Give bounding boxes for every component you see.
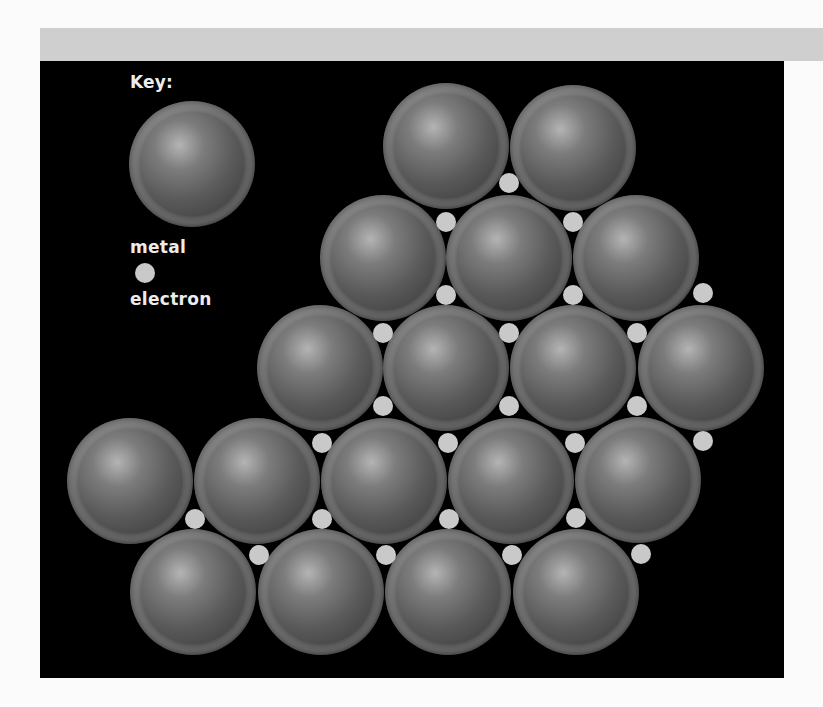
electron bbox=[627, 396, 647, 416]
electron bbox=[373, 323, 393, 343]
electron bbox=[693, 283, 713, 303]
metal-atom bbox=[510, 85, 636, 211]
electron bbox=[565, 433, 585, 453]
electron bbox=[373, 396, 393, 416]
electron bbox=[185, 509, 205, 529]
electron-dot-icon bbox=[135, 263, 155, 283]
metal-atom bbox=[510, 305, 636, 431]
key-title: Key: bbox=[130, 72, 173, 92]
metallic-bonding-diagram: Key: metal electron bbox=[0, 0, 823, 707]
metal-atom bbox=[130, 529, 256, 655]
electron bbox=[499, 396, 519, 416]
electron bbox=[312, 509, 332, 529]
metal-atom bbox=[257, 305, 383, 431]
lattice-canvas bbox=[0, 0, 823, 707]
metal-atom bbox=[513, 529, 639, 655]
metal-atom bbox=[67, 418, 193, 544]
metal-atom bbox=[321, 418, 447, 544]
metal-atom bbox=[638, 305, 764, 431]
key-metal-icon bbox=[129, 101, 255, 227]
electron bbox=[631, 544, 651, 564]
metal-atom bbox=[448, 418, 574, 544]
electron bbox=[627, 323, 647, 343]
electron bbox=[499, 173, 519, 193]
electron bbox=[693, 431, 713, 451]
electron bbox=[436, 212, 456, 232]
electron bbox=[249, 545, 269, 565]
metal-sphere-icon bbox=[129, 101, 255, 227]
metal-atom bbox=[383, 305, 509, 431]
electron bbox=[436, 285, 456, 305]
metal-atom bbox=[194, 418, 320, 544]
electron bbox=[566, 508, 586, 528]
electron bbox=[502, 545, 522, 565]
metal-atom bbox=[383, 83, 509, 209]
electron bbox=[376, 545, 396, 565]
metal-atom bbox=[320, 195, 446, 321]
electron bbox=[499, 323, 519, 343]
electron bbox=[438, 433, 458, 453]
metal-atom bbox=[446, 195, 572, 321]
metal-atom bbox=[575, 417, 701, 543]
electron bbox=[563, 212, 583, 232]
key-label-metal: metal bbox=[130, 237, 186, 257]
metal-atom bbox=[258, 529, 384, 655]
key-label-electron: electron bbox=[130, 289, 212, 309]
electron bbox=[312, 433, 332, 453]
electron bbox=[439, 509, 459, 529]
electron bbox=[563, 285, 583, 305]
metal-atom bbox=[385, 529, 511, 655]
key-electron-icon bbox=[135, 263, 155, 283]
metal-atom bbox=[573, 195, 699, 321]
